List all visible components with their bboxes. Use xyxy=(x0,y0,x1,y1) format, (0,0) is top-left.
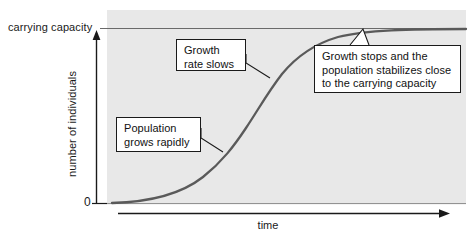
x-axis-title: time xyxy=(228,219,308,231)
figure-root: carrying capacity 0 number of individual… xyxy=(0,0,476,240)
y-axis-arrowhead xyxy=(93,30,101,40)
callout-tail-growth-rate-slows xyxy=(246,54,270,78)
callout-population-grows-rapidly: Population grows rapidly xyxy=(116,117,201,152)
carrying-capacity-label: carrying capacity xyxy=(8,21,92,33)
callout-line: grows rapidly xyxy=(124,136,194,150)
callout-line: population stabilizes close xyxy=(322,64,454,78)
callout-line: Growth stops and the xyxy=(322,50,454,64)
callout-growth-rate-slows: Growth rate slows xyxy=(176,39,246,71)
callout-growth-stops: Growth stops and the population stabiliz… xyxy=(314,45,461,93)
callout-line: rate slows xyxy=(184,58,239,72)
callout-line: Growth xyxy=(184,44,239,58)
callout-tail-population-grows xyxy=(201,128,223,152)
y-axis-title: number of individuals xyxy=(66,44,78,204)
x-axis-arrowhead xyxy=(439,209,450,217)
callout-line: to the carrying capacity xyxy=(322,77,454,91)
y-axis-origin-label: 0 xyxy=(84,195,91,209)
callout-line: Population xyxy=(124,122,194,136)
